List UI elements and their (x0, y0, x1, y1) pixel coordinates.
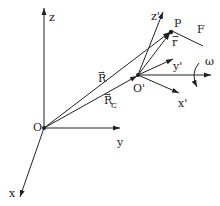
vector-R (44, 32, 170, 128)
label-O-prime: O' (133, 82, 145, 95)
reference-frame-diagram: z y x O O' P F z' y' x' ω → R → R C → r (0, 0, 220, 206)
svg-text:R: R (98, 72, 107, 85)
label-x-prime: x' (178, 97, 187, 110)
svg-text:C: C (111, 101, 117, 110)
label-Rc-vector: → R C (104, 90, 117, 110)
x-axis (20, 128, 44, 197)
label-F: F (197, 23, 205, 36)
label-y-prime: y' (172, 60, 182, 73)
label-z: z (49, 11, 55, 24)
vector-Rc (44, 76, 137, 128)
label-y: y (116, 136, 124, 149)
label-z-prime: z' (151, 10, 160, 23)
point-O (42, 126, 46, 130)
label-r-vector: → r (172, 32, 179, 49)
label-O: O (33, 121, 42, 134)
point-O-prime (136, 73, 140, 77)
label-P: P (174, 17, 182, 30)
vector-r (138, 33, 170, 75)
svg-text:r: r (172, 36, 178, 49)
label-x: x (9, 187, 16, 200)
label-R-vector: → R (98, 68, 107, 85)
label-omega: ω (205, 55, 214, 68)
